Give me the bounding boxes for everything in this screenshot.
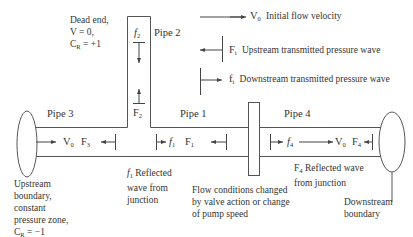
F4-label: F4 bbox=[352, 135, 361, 151]
F1-label: F1 bbox=[185, 135, 194, 151]
dead-end-note: Dead end, V = 0, CR = +1 bbox=[70, 14, 109, 53]
upstream-boundary-ellipse bbox=[17, 111, 37, 177]
valve-box bbox=[249, 103, 260, 176]
f1-reflected-note: f1 Reflected wave from junction bbox=[127, 167, 172, 206]
legend-downstream: fi Downstream transmitted pressure wave bbox=[229, 72, 390, 88]
f2-label: f2 bbox=[134, 26, 140, 42]
F3-label: F3 bbox=[81, 135, 90, 151]
flow-conditions-note: Flow conditions changed by valve action … bbox=[192, 184, 290, 220]
pipe-2-label: Pipe 2 bbox=[154, 26, 181, 39]
f4-label: f4 bbox=[287, 135, 293, 151]
V0-pipe4-label: V0 bbox=[335, 135, 346, 151]
pipe-1-label: Pipe 1 bbox=[180, 107, 207, 120]
downstream-boundary-note: Downstream boundary bbox=[344, 196, 393, 220]
legend-upstream: Fi Upstream transmitted pressure wave bbox=[229, 43, 380, 59]
pipe-4-label: Pipe 4 bbox=[284, 107, 311, 120]
V0-pipe3-label: V0 bbox=[63, 135, 74, 151]
upstream-boundary-note: Upstream boundary, constant pressure zon… bbox=[14, 178, 68, 237]
f1-label: f1 bbox=[169, 135, 175, 151]
pipe-3-label: Pipe 3 bbox=[47, 107, 74, 120]
F4-reflected-note: F4 Reflected wave from junction bbox=[294, 162, 364, 189]
downstream-boundary-ellipse bbox=[379, 112, 405, 172]
F2-label: F2 bbox=[133, 106, 142, 122]
legend-velocity: V0 Initial flow velocity bbox=[250, 9, 342, 25]
